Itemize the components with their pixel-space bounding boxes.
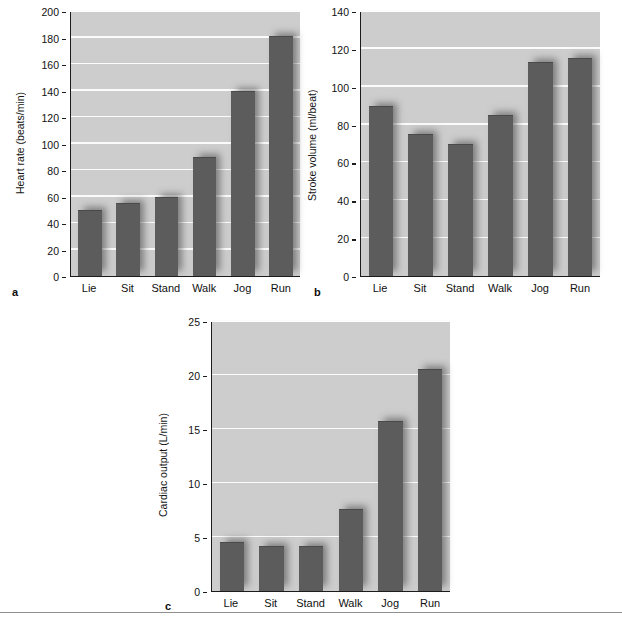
gridline (212, 320, 450, 322)
y-tick-label: 5 (194, 532, 200, 544)
bar-slot (371, 322, 411, 591)
bar[interactable] (299, 546, 324, 591)
panel-letter-c: c (165, 600, 171, 612)
y-tick-mark (203, 592, 207, 593)
x-tick-label: Run (410, 597, 450, 609)
y-tick-mark (203, 538, 207, 539)
x-tick-label: Sit (251, 597, 291, 609)
y-axis-ticks-c: 0510152025 (175, 322, 207, 592)
x-axis-labels-c: LieSitStandWalkJogRun (211, 597, 450, 609)
bar-slot (331, 322, 371, 591)
y-tick-mark (203, 376, 207, 377)
y-tick-label: 0 (194, 586, 200, 598)
bar[interactable] (220, 542, 245, 591)
y-tick-mark (203, 430, 207, 431)
bar[interactable] (378, 421, 403, 591)
figure-root: Heart rate (beats/min) 02040608010012014… (0, 0, 622, 624)
y-tick-label: 15 (188, 424, 200, 436)
x-tick-label: Stand (291, 597, 331, 609)
bar-series (212, 322, 450, 591)
bar[interactable] (259, 546, 284, 591)
bar-slot (410, 322, 450, 591)
y-axis-title-c: Cardiac output (L/min) (157, 370, 171, 560)
y-tick-label: 20 (188, 370, 200, 382)
y-tick-mark (203, 322, 207, 323)
bar-slot (212, 322, 252, 591)
footer-divider (0, 612, 622, 613)
y-tick-label: 10 (188, 478, 200, 490)
bar-slot (252, 322, 292, 591)
plot-inner-c (212, 322, 450, 591)
plot-area-c (211, 322, 450, 592)
y-tick-mark (203, 484, 207, 485)
x-tick-label: Lie (211, 597, 251, 609)
bar[interactable] (418, 369, 443, 591)
bar[interactable] (339, 509, 364, 591)
y-tick-label: 25 (188, 316, 200, 328)
x-tick-label: Jog (370, 597, 410, 609)
x-tick-label: Walk (330, 597, 370, 609)
bar-slot (291, 322, 331, 591)
chart-panel-c: Cardiac output (L/min) 0510152025 LieSit… (0, 0, 622, 624)
